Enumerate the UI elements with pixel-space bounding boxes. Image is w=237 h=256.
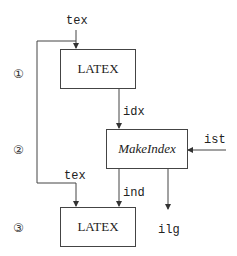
latex-box-2-label: LATEX	[77, 219, 118, 235]
file-label-tex-in: tex	[66, 15, 88, 27]
step-2-marker: ②	[13, 144, 24, 156]
makeindex-box-label: MakeIndex	[118, 141, 176, 157]
latex-box-1: LATEX	[60, 49, 136, 89]
step-1-marker: ①	[13, 68, 24, 80]
file-label-ist: ist	[204, 134, 226, 146]
step-3-marker: ③	[13, 222, 24, 234]
latex-box-1-label: LATEX	[77, 61, 118, 77]
latex-box-2: LATEX	[60, 207, 136, 247]
file-label-tex-loop: tex	[64, 170, 86, 182]
file-label-ind: ind	[123, 187, 145, 199]
makeindex-box: MakeIndex	[106, 129, 188, 169]
file-label-idx: idx	[123, 106, 145, 118]
file-label-ilg: ilg	[158, 224, 180, 236]
